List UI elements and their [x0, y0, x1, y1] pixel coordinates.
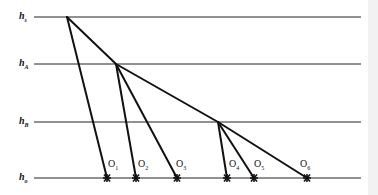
edge-s-a [67, 17, 116, 64]
tree-edges [67, 17, 307, 178]
level-label-hs: hs [19, 10, 27, 23]
obs-label-o1: O1 [108, 158, 118, 171]
asterisk-icon [103, 174, 111, 182]
edge-s-o1 [67, 17, 107, 178]
obs-label-o2: O2 [138, 158, 148, 171]
asterisk-icon [303, 174, 311, 182]
tree-diagram [0, 0, 378, 195]
asterisk-icon [223, 174, 231, 182]
asterisk-icon [132, 174, 140, 182]
obs-label-o6: O6 [300, 158, 310, 171]
asterisk-icon [250, 174, 258, 182]
level-lines [34, 17, 361, 178]
obs-label-o3: O3 [176, 158, 186, 171]
obs-label-o5: O5 [254, 158, 264, 171]
level-label-hB: hB [19, 115, 29, 128]
level-label-ho: ho [19, 171, 28, 184]
level-label-hA: hA [19, 57, 29, 70]
obs-label-o4: O4 [229, 158, 239, 171]
asterisk-icon [173, 174, 181, 182]
